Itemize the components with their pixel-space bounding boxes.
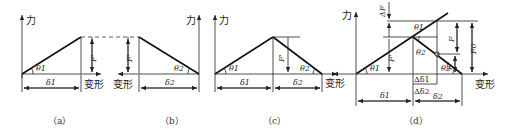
theta2-label: θ2 (174, 64, 184, 73)
residual-preload-label: F'' (446, 61, 454, 71)
theta1-label: θ1 (36, 64, 46, 73)
caption-a: （a） (48, 116, 71, 126)
delta-force-label: ΔF (378, 5, 387, 18)
member-stiffness-line (139, 37, 199, 74)
panel-a: 力 θ1 δ1 F' 变形 （a） (22, 14, 139, 126)
delta-delta2-label: Δδ2 (414, 87, 430, 96)
caption-d: （d） (404, 116, 428, 126)
preload-force-label: F' (89, 54, 98, 63)
panel-d: 力 θ1 θ2 θ1 θ2 ΔF F' F F0 (333, 2, 495, 126)
theta1-label: θ1 (229, 64, 239, 73)
deformation-axis-label: 变形 (325, 77, 345, 89)
preload-force-label: F' (125, 54, 134, 63)
delta1-label: δ1 (46, 78, 56, 87)
angle-arc (188, 68, 190, 74)
panel-c: 力 θ1 θ2 F' δ1 δ2 变形 （c） (215, 14, 345, 126)
delta2-label: δ2 (165, 78, 175, 87)
force-axis-label: 力 (186, 14, 196, 26)
deformation-axis-label: 变形 (84, 78, 104, 90)
force-axis-label: 力 (342, 9, 352, 21)
theta1-label: θ1 (370, 64, 380, 73)
delta2-label: δ2 (293, 78, 303, 87)
bolt-stiffness-line (22, 37, 81, 74)
deformation-axis-label: 变形 (475, 78, 495, 90)
total-bolt-force-label: F0 (469, 43, 478, 55)
caption-c: （c） (263, 116, 286, 126)
angle-arc (32, 68, 34, 74)
panel-b: 力 θ2 δ2 F' 变形 （b） (113, 14, 199, 126)
working-force-label: F (447, 36, 456, 43)
theta1-upper-label: θ1 (414, 23, 424, 32)
theta2-upper-label: θ2 (416, 48, 426, 57)
delta1-label: δ1 (240, 78, 250, 87)
preload-force-label: F' (387, 54, 396, 63)
bolt-joint-force-deformation-diagram: 力 θ1 δ1 F' 变形 （a） 力 θ2 δ2 F' 变形 （b） (0, 0, 512, 133)
delta2-label: δ2 (433, 92, 443, 101)
theta2-label: θ2 (300, 64, 310, 73)
preload-force-label: F' (277, 54, 286, 63)
force-axis-label: 力 (219, 14, 229, 26)
bolt-stiffness-line (215, 37, 273, 74)
delta1-label: δ1 (380, 91, 390, 100)
delta-delta1-label: Δδ1 (414, 75, 430, 84)
deformation-axis-label: 变形 (113, 78, 133, 90)
caption-b: （b） (160, 116, 184, 126)
force-axis-label: 力 (26, 14, 36, 26)
